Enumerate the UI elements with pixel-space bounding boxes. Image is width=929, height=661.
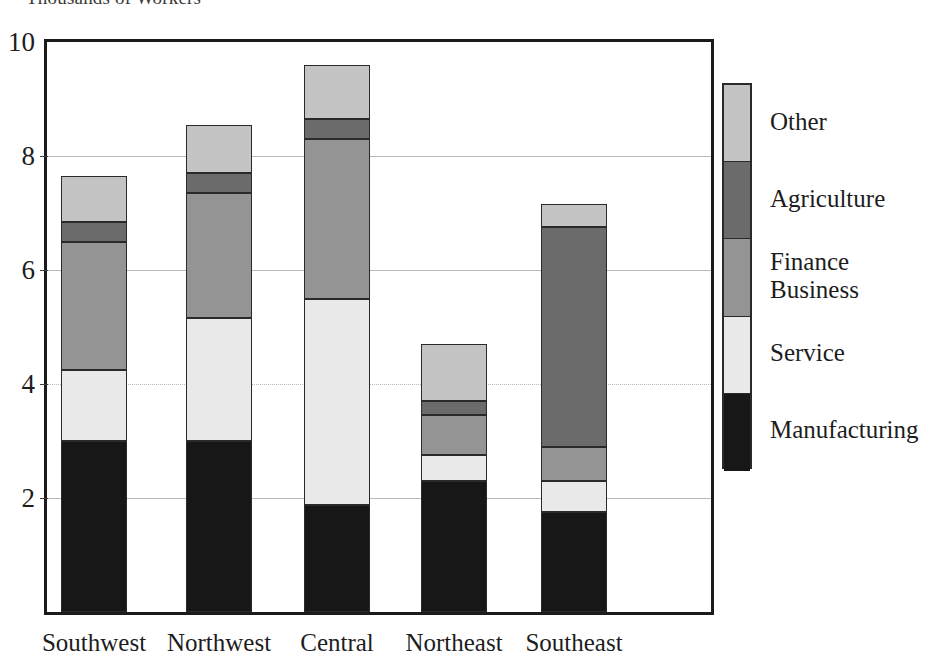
- bar-northwest[interactable]: [186, 125, 252, 612]
- bar-segment-northeast-agriculture[interactable]: [421, 401, 487, 415]
- bar-segment-northeast-manufacturing[interactable]: [421, 481, 487, 612]
- gridline-4: [47, 384, 711, 385]
- tickmark-4: [40, 384, 48, 385]
- chart-caption: Thousands of Workers: [26, 0, 201, 9]
- chart-legend: OtherAgricultureFinance BusinessServiceM…: [722, 83, 922, 473]
- gridline-8: [47, 156, 711, 157]
- y-axis-label-6: 6: [22, 255, 36, 286]
- bar-segment-southwest-manufacturing[interactable]: [61, 441, 127, 612]
- bar-segment-northwest-service[interactable]: [186, 318, 252, 441]
- bar-southeast[interactable]: [541, 204, 607, 612]
- bar-segment-central-finance-business[interactable]: [304, 139, 370, 299]
- bar-segment-northwest-agriculture[interactable]: [186, 173, 252, 193]
- bar-segment-northeast-other[interactable]: [421, 344, 487, 401]
- x-axis-label-southeast: Southeast: [494, 629, 654, 657]
- bar-segment-northwest-other[interactable]: [186, 125, 252, 173]
- legend-swatch-manufacturing[interactable]: [724, 394, 750, 471]
- bar-segment-southeast-service[interactable]: [541, 481, 607, 512]
- tickmark-6: [40, 270, 48, 271]
- bar-segment-central-manufacturing[interactable]: [304, 505, 370, 612]
- bar-segment-southwest-agriculture[interactable]: [61, 222, 127, 242]
- y-axis-label-2: 2: [22, 483, 36, 514]
- bar-segment-northeast-service[interactable]: [421, 455, 487, 481]
- bar-segment-central-other[interactable]: [304, 65, 370, 119]
- legend-label-agriculture: Agriculture: [770, 185, 885, 213]
- legend-swatch-finance-business[interactable]: [724, 239, 750, 316]
- gridline-6: [47, 270, 711, 271]
- y-axis-label-4: 4: [22, 369, 36, 400]
- bar-segment-southwest-other[interactable]: [61, 176, 127, 222]
- bar-segment-southwest-service[interactable]: [61, 370, 127, 441]
- y-axis-label-10: 10: [8, 27, 35, 58]
- bar-segment-northwest-finance-business[interactable]: [186, 193, 252, 318]
- bar-central[interactable]: [304, 65, 370, 612]
- legend-label-other: Other: [770, 108, 827, 136]
- bar-northeast[interactable]: [421, 344, 487, 612]
- bar-southwest[interactable]: [61, 176, 127, 612]
- bar-segment-southeast-other[interactable]: [541, 204, 607, 227]
- legend-label-finance-business: Finance Business: [770, 248, 859, 304]
- legend-label-service: Service: [770, 339, 845, 367]
- legend-swatch-column: [722, 83, 752, 469]
- bar-segment-southeast-finance-business[interactable]: [541, 447, 607, 481]
- legend-swatch-other[interactable]: [724, 85, 750, 162]
- legend-swatch-service[interactable]: [724, 317, 750, 394]
- plot-inner: 246810: [47, 42, 711, 612]
- bar-segment-southeast-manufacturing[interactable]: [541, 512, 607, 612]
- bar-segment-northwest-manufacturing[interactable]: [186, 441, 252, 612]
- bar-segment-central-service[interactable]: [304, 299, 370, 506]
- y-axis-label-8: 8: [22, 141, 36, 172]
- tickmark-8: [40, 156, 48, 157]
- bar-segment-southeast-agriculture[interactable]: [541, 227, 607, 446]
- bar-segment-southwest-finance-business[interactable]: [61, 242, 127, 370]
- tickmark-2: [40, 498, 48, 499]
- legend-swatch-agriculture[interactable]: [724, 162, 750, 239]
- bar-segment-central-agriculture[interactable]: [304, 119, 370, 139]
- plot-area: 246810: [44, 39, 714, 615]
- legend-label-manufacturing: Manufacturing: [770, 416, 919, 444]
- gridline-2: [47, 498, 711, 499]
- bar-segment-northeast-finance-business[interactable]: [421, 415, 487, 455]
